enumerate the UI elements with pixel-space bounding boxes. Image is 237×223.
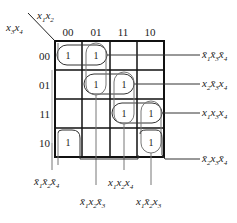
group-x2-x3bar-x4 xyxy=(84,74,134,94)
cell-00-00: 1 xyxy=(66,50,71,61)
term-x2bar-x3-x4bar: x̄2x3x̄4 xyxy=(201,152,228,167)
row-header-01: 01 xyxy=(39,79,50,91)
row-var-label: x3x4 xyxy=(5,21,23,36)
col-header-11: 11 xyxy=(118,26,129,38)
term-x1bar-x3bar-x4bar: x̄1x̄3x̄4 xyxy=(201,48,228,63)
row-headers: 00 01 11 10 xyxy=(39,50,51,149)
cell-01-01: 1 xyxy=(94,79,99,90)
term-x1-x3-x4: x1x3x4 xyxy=(201,106,228,121)
term-x1-x2bar-x3: x1x̄2x3 xyxy=(135,195,162,210)
right-term-labels: x̄1x̄3x̄4 x2x̄3x4 x1x3x4 x̄2x3x̄4 xyxy=(201,48,228,167)
row-header-11: 11 xyxy=(39,108,50,120)
row-header-00: 00 xyxy=(39,50,51,62)
cell-11-10: 1 xyxy=(149,108,154,119)
row-header-10: 10 xyxy=(39,137,51,149)
term-x1bar-x2-x3bar: x̄1x2x̄3 xyxy=(79,195,106,210)
bottom-term-labels: x̄1x̄2x̄4 x1x2x4 x̄1x2x̄3 x1x̄2x3 xyxy=(33,175,162,210)
cell-00-01: 1 xyxy=(94,50,99,61)
column-headers: 00 01 11 10 xyxy=(63,26,157,38)
col-header-01: 01 xyxy=(91,26,102,38)
cell-11-11: 1 xyxy=(122,108,127,119)
cell-01-11: 1 xyxy=(122,79,127,90)
col-var-label: x1x2 xyxy=(36,9,54,24)
cell-10-10: 1 xyxy=(149,137,154,148)
karnaugh-map-diagram: x1x2 x3x4 00 01 11 10 00 01 11 10 xyxy=(0,0,237,223)
cell-10-00: 1 xyxy=(66,137,71,148)
term-x1-x2-x4: x1x2x4 xyxy=(107,176,134,191)
col-header-00: 00 xyxy=(63,26,75,38)
term-x1bar-x2bar-x4bar: x̄1x̄2x̄4 xyxy=(33,175,60,190)
col-header-10: 10 xyxy=(145,26,157,38)
term-x2-x3bar-x4: x2x̄3x4 xyxy=(201,77,228,92)
